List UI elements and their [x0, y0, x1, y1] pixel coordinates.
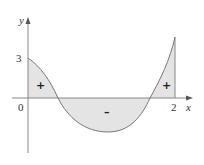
shaded-area — [28, 37, 175, 132]
origin-label: 0 — [18, 102, 24, 113]
x-axis-label: x — [186, 102, 191, 113]
x-axis-arrow-icon — [186, 96, 193, 101]
x-tick-2: 2 — [171, 102, 177, 113]
negative-region-sign: – — [104, 107, 110, 118]
area-under-curve-plot — [0, 0, 204, 165]
y-axis-label: y — [19, 15, 24, 26]
positive-region-right-sign: + — [162, 80, 171, 91]
y-axis-arrow-icon — [26, 17, 31, 24]
y-tick-3: 3 — [16, 53, 22, 64]
positive-region-left-sign: + — [36, 80, 45, 91]
